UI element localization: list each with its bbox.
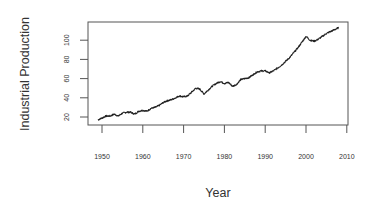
y-tick-label: 100: [63, 34, 70, 46]
x-tick-label: 1980: [217, 153, 233, 160]
x-tick-label: 2000: [298, 153, 314, 160]
plot-box: [88, 22, 348, 125]
x-tick-label: 1960: [135, 153, 151, 160]
data-line: [98, 27, 339, 120]
x-tick-label: 1970: [176, 153, 192, 160]
x-tick-label: 1950: [94, 153, 110, 160]
y-tick-label: 60: [63, 75, 70, 83]
y-tick-label: 80: [63, 55, 70, 63]
y-tick-label: 40: [63, 94, 70, 102]
x-axis-title: Year: [205, 186, 230, 200]
line-chart: 20406080100 1950196019701980199020002010…: [0, 0, 370, 209]
y-tick-label: 20: [63, 113, 70, 121]
x-tick-label: 1990: [257, 153, 273, 160]
y-axis-title: Industrial Production: [18, 17, 32, 131]
x-axis: 1950196019701980199020002010: [94, 125, 354, 160]
x-tick-label: 2010: [339, 153, 355, 160]
y-axis: 20406080100: [63, 34, 88, 121]
